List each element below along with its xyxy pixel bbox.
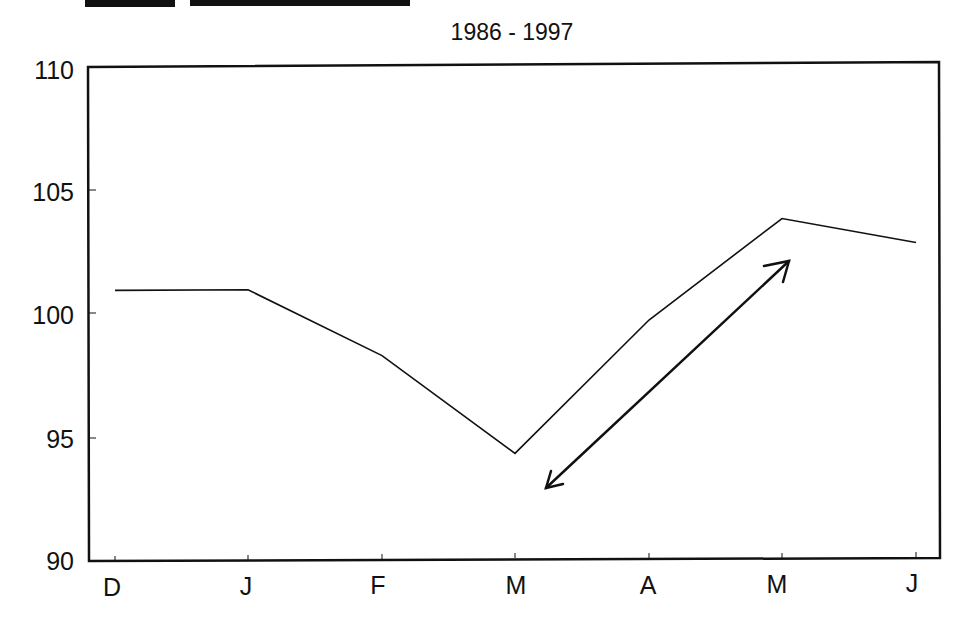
x-tick-label: F: [370, 571, 385, 599]
y-tick-label: 105: [32, 178, 74, 206]
line-chart: 1986 - 1997 110 105 100 95 90 D J F M A …: [0, 0, 963, 624]
x-tick-label: M: [767, 570, 788, 598]
x-tick-label: J: [240, 572, 253, 600]
data-series-line: [115, 219, 916, 454]
plot-frame: [88, 62, 940, 561]
double-arrow-annotation: [546, 261, 789, 488]
y-tick-label: 100: [32, 301, 74, 329]
chart-subtitle: 1986 - 1997: [451, 19, 574, 45]
x-tick-label: A: [640, 571, 657, 599]
y-tick-label: 90: [46, 547, 74, 575]
x-tick-label: J: [906, 569, 919, 597]
x-tick-label: D: [103, 573, 121, 601]
y-tick-label: 110: [34, 56, 74, 84]
y-tick-label: 95: [46, 425, 74, 453]
x-tick-label: M: [506, 571, 527, 599]
chart-title-cutoff: [85, 0, 410, 7]
y-axis: 110 105 100 95 90: [32, 56, 96, 575]
